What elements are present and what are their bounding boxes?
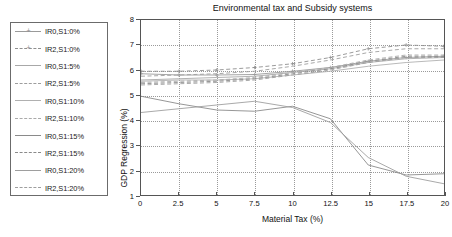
legend-marker-plus-icon: + [26, 45, 31, 50]
legend-item[interactable]: IR2,S1:20% [11, 180, 107, 197]
legend-line-sample [15, 78, 41, 90]
plot-area [140, 19, 445, 196]
series-marker-plus-icon [291, 62, 295, 66]
y-tick-mark [136, 171, 140, 172]
legend-item[interactable]: IR0,S1:20% [11, 162, 107, 179]
legend-item-label: IR0,S1:10% [45, 97, 84, 106]
series-svg [141, 20, 444, 195]
y-tick-mark [136, 44, 140, 45]
x-tick-label: 2.5 [173, 199, 184, 208]
series-marker-plus-icon [404, 43, 408, 47]
legend-line-sample: + [15, 26, 41, 38]
x-tick-label: 5 [214, 199, 218, 208]
series-marker-plus-icon [253, 66, 257, 70]
y-tick-label: 1 [124, 192, 134, 201]
legend-item-label: IR2,S1:0% [45, 45, 80, 54]
series-marker-plus-icon [442, 44, 444, 48]
x-tick-label: 20 [441, 199, 449, 208]
legend-item-label: IR0,S1:0% [45, 27, 80, 36]
legend-line-sample: + [15, 43, 41, 55]
x-tick-mark [407, 192, 408, 196]
chart-title: Environmental tax and Subsidy systems [140, 3, 445, 13]
x-tick-label: 0 [138, 199, 142, 208]
legend-item-label: IR2,S1:10% [45, 114, 84, 123]
x-tick-mark [216, 192, 217, 196]
legend-item-label: IR0,S1:15% [45, 132, 84, 141]
series-marker-plus-icon [177, 69, 181, 73]
x-tick-label: 7.5 [249, 199, 260, 208]
x-tick-mark [369, 192, 370, 196]
legend-item-label: IR0,S1:20% [45, 166, 84, 175]
x-tick-label: 15 [365, 199, 373, 208]
legend-line-sample [15, 147, 41, 159]
y-tick-label: 8 [124, 15, 134, 24]
series-marker-plus-icon [215, 68, 219, 72]
legend-item[interactable]: IR2,S1:15% [11, 145, 107, 162]
series-line [141, 101, 444, 183]
x-axis-label: Material Tax (%) [140, 214, 445, 224]
legend-line-sample [15, 165, 41, 177]
legend-line-sample [15, 130, 41, 142]
legend-item-label: IR2,S1:20% [45, 184, 84, 193]
x-tick-mark [254, 192, 255, 196]
series-marker-plus-icon [141, 69, 143, 73]
y-tick-label: 2 [124, 166, 134, 175]
legend-box: +IR0,S1:0%+IR2,S1:0%IR0,S1:5%IR2,S1:5%IR… [10, 22, 108, 196]
legend-item[interactable]: IR0,S1:15% [11, 127, 107, 144]
legend-item[interactable]: IR2,S1:10% [11, 110, 107, 127]
legend-item[interactable]: IR2,S1:5% [11, 75, 107, 92]
legend-line-sample [15, 182, 41, 194]
y-tick-label: 4 [124, 116, 134, 125]
y-tick-label: 6 [124, 65, 134, 74]
legend-item-label: IR2,S1:15% [45, 149, 84, 158]
y-tick-mark [136, 70, 140, 71]
series-marker-plus-icon [329, 56, 333, 60]
x-tick-mark [178, 192, 179, 196]
legend-item[interactable]: +IR2,S1:0% [11, 40, 107, 57]
legend-item[interactable]: +IR0,S1:0% [11, 23, 107, 40]
legend-marker-plus-icon: + [26, 28, 31, 33]
y-tick-label: 7 [124, 40, 134, 49]
legend-line-sample [15, 113, 41, 125]
series-marker-plus-icon [366, 47, 370, 51]
x-tick-mark [331, 192, 332, 196]
y-tick-mark [136, 19, 140, 20]
legend-item[interactable]: IR0,S1:5% [11, 58, 107, 75]
x-tick-mark [140, 192, 141, 196]
x-tick-label: 10 [288, 199, 296, 208]
y-tick-mark [136, 95, 140, 96]
series-layer [141, 20, 444, 195]
y-tick-label: 5 [124, 90, 134, 99]
legend-line-sample [15, 95, 41, 107]
x-tick-label: 17.5 [399, 199, 414, 208]
y-tick-mark [136, 120, 140, 121]
x-tick-label: 12.5 [323, 199, 338, 208]
legend-line-sample [15, 60, 41, 72]
x-tick-mark [445, 192, 446, 196]
series-line [141, 58, 444, 81]
y-tick-mark [136, 196, 140, 197]
legend-item-label: IR2,S1:5% [45, 79, 80, 88]
chart-figure: +IR0,S1:0%+IR2,S1:0%IR0,S1:5%IR2,S1:5%IR… [0, 0, 452, 237]
x-tick-mark [293, 192, 294, 196]
y-tick-mark [136, 145, 140, 146]
y-tick-label: 3 [124, 141, 134, 150]
y-axis-label-holder: GDP Regression (%) [103, 48, 125, 168]
legend-item[interactable]: IR0,S1:10% [11, 93, 107, 110]
legend-item-label: IR0,S1:5% [45, 62, 80, 71]
